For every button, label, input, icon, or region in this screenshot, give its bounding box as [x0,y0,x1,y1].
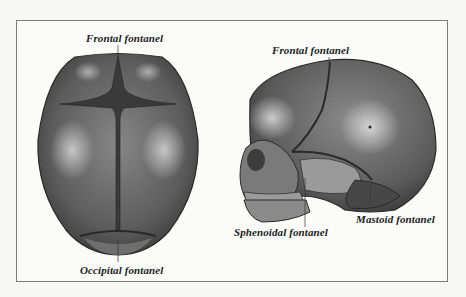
superior-skull [38,45,198,262]
lateral-skull [240,57,436,227]
label-occipital-fontanel: Occipital fontanel [80,264,163,276]
label-frontal-fontanel-lateral: Frontal fontanel [272,44,349,56]
label-mastoid-fontanel: Mastoid fontanel [356,213,435,225]
skull-illustrations [0,0,466,297]
label-frontal-fontanel-superior: Frontal fontanel [86,32,163,44]
label-sphenoidal-fontanel: Sphenoidal fontanel [234,226,328,238]
